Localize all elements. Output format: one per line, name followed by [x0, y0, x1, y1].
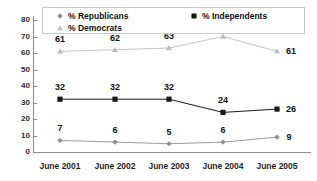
y-axis-tick-label: 60 — [4, 49, 30, 57]
y-axis-tick — [33, 53, 37, 54]
line-chart: 01020304050607080 June 2001June 2002June… — [0, 0, 317, 181]
data-point-label: 6 — [220, 125, 225, 135]
triangle-icon — [56, 25, 63, 32]
data-point-marker — [112, 97, 117, 102]
y-axis-tick-label: 10 — [4, 132, 30, 140]
y-axis-tick-label: 50 — [4, 66, 30, 74]
data-point-marker — [112, 47, 118, 52]
y-axis-tick-label: 30 — [4, 99, 30, 107]
legend-item-democrats[interactable]: % Democrats — [56, 23, 122, 33]
y-axis-tick — [33, 70, 37, 71]
data-point-label: 26 — [286, 104, 296, 114]
legend-label-independents: % Independents — [202, 11, 267, 21]
data-point-label: 32 — [164, 82, 174, 92]
series-line — [60, 137, 277, 144]
data-point-label: 5 — [166, 127, 171, 137]
y-axis-tick — [33, 20, 37, 21]
y-axis-tick-label: 40 — [4, 82, 30, 90]
x-axis-tick-label: June 2004 — [202, 161, 243, 171]
data-point-marker — [57, 48, 63, 53]
data-point-marker — [112, 140, 117, 145]
data-point-marker — [274, 135, 279, 140]
y-axis-tick — [33, 152, 37, 153]
legend-label-democrats: % Democrats — [68, 23, 122, 33]
data-point-label: 61 — [286, 46, 296, 56]
legend-item-independents[interactable]: % Independents — [190, 11, 267, 21]
data-point-marker — [220, 140, 225, 145]
y-axis-tick-label: 20 — [4, 115, 30, 123]
x-axis-line — [33, 152, 311, 153]
y-axis-tick — [33, 136, 37, 137]
x-axis-tick-label: June 2003 — [148, 161, 189, 171]
data-point-marker — [57, 97, 62, 102]
data-point-marker — [57, 138, 62, 143]
diamond-icon — [56, 13, 63, 20]
data-point-marker — [220, 34, 226, 39]
y-axis-tick-label: 80 — [4, 16, 30, 24]
data-point-label: 62 — [110, 33, 120, 43]
data-point-label: 24 — [218, 95, 228, 105]
y-axis-tick — [33, 86, 37, 87]
y-axis-tick — [33, 37, 37, 38]
data-point-label: 9 — [286, 132, 291, 142]
x-axis-tick-label: June 2005 — [256, 161, 297, 171]
data-point-marker — [166, 97, 171, 102]
data-point-marker — [274, 48, 280, 53]
data-point-label: 61 — [55, 34, 65, 44]
series-line — [60, 99, 277, 112]
data-point-marker — [220, 110, 225, 115]
square-icon — [190, 13, 197, 20]
data-point-marker — [166, 45, 172, 50]
legend-label-republicans: % Republicans — [68, 11, 128, 21]
x-axis-tick-label: June 2002 — [94, 161, 135, 171]
data-point-label: 6 — [112, 125, 117, 135]
x-axis-tick-label: June 2001 — [39, 161, 80, 171]
y-axis-tick — [33, 119, 37, 120]
y-axis-tick-label: 0 — [4, 148, 30, 156]
legend-item-republicans[interactable]: % Republicans — [56, 11, 128, 21]
y-axis-tick — [33, 103, 37, 104]
data-point-marker — [166, 141, 171, 146]
data-point-label: 32 — [110, 82, 120, 92]
data-point-label: 32 — [55, 82, 65, 92]
data-point-label: 7 — [57, 123, 62, 133]
data-point-marker — [274, 107, 279, 112]
y-axis-tick-label: 70 — [4, 33, 30, 41]
